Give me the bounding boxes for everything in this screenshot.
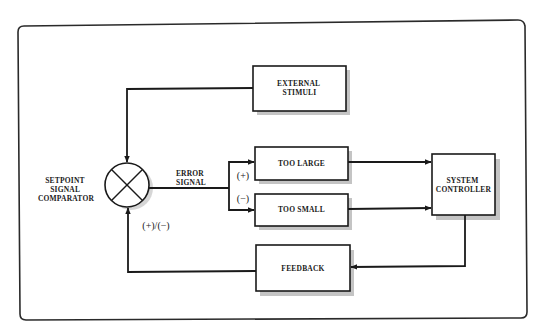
minus-label: (−) <box>237 193 249 205</box>
svg-text:EXTERNAL STIMULI: EXTERNAL STIMULI <box>277 79 322 97</box>
svg-text:TOO SMALL: TOO SMALL <box>278 205 325 214</box>
comparator-label: SETPOINT SIGNAL COMPARATOR <box>38 176 95 203</box>
external-stimuli-block: EXTERNAL STIMULI <box>253 66 350 115</box>
error-signal-label: ERROR SIGNAL <box>176 169 206 187</box>
svg-text:FEEDBACK: FEEDBACK <box>281 264 324 273</box>
too-small-block: TOO SMALL <box>255 194 352 230</box>
too-large-block: TOO LARGE <box>255 147 352 184</box>
plus-label: (+) <box>237 170 249 182</box>
edge-controller-to-feedback <box>351 215 465 267</box>
plus-minus-label: (+)/(−) <box>142 220 169 232</box>
edge-feedback-to-comparator <box>128 208 256 272</box>
setpoint-signal-comparator <box>105 163 153 210</box>
edge-too-small-to-controller <box>348 208 431 209</box>
control-loop-diagram: SETPOINT SIGNAL COMPARATOR EXTERNAL STIM… <box>0 0 547 336</box>
edge-external-to-comparator <box>127 88 253 162</box>
svg-text:TOO LARGE: TOO LARGE <box>278 159 325 168</box>
feedback-block: FEEDBACK <box>256 245 354 296</box>
system-controller-block: SYSTEM CONTROLLER <box>432 154 500 220</box>
